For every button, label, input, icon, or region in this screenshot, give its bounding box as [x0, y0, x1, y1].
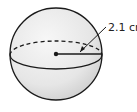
- sphere-diagram: 2.1 cm: [0, 0, 137, 112]
- radius-label: 2.1 cm: [108, 21, 137, 34]
